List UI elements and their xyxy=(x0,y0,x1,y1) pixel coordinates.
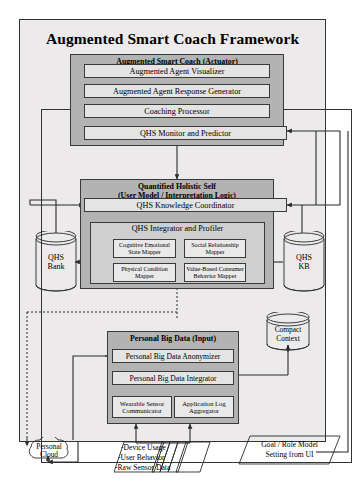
goal-role-model-line2: Setting from UI xyxy=(238,450,341,459)
box-label-line1: Application Log xyxy=(182,400,225,408)
box-application-log-aggregator[interactable]: Application Log Aggregator xyxy=(174,396,234,418)
datastore-qhs-bank-line2: Bank xyxy=(33,262,79,271)
box-label-line2: Mapper xyxy=(135,273,154,280)
box-label-line1: Physical Condition xyxy=(121,266,168,273)
qhs-group-title-line1: Quantified Holistic Self xyxy=(81,180,273,191)
box-augmented-agent-response-generator[interactable]: Augmented Agent Response Generator xyxy=(84,84,270,98)
datastore-qhs-kb-line2: KB xyxy=(281,262,327,271)
box-label: QHS Monitor and Predictor xyxy=(140,129,231,138)
raw-data-line3: -Raw Sensor Data xyxy=(115,463,214,472)
box-label: Personal Big Data Integrator xyxy=(129,374,216,383)
box-qhs-monitor-and-predictor[interactable]: QHS Monitor and Predictor xyxy=(84,126,287,140)
box-value-based-consumer-behavior-mapper[interactable]: Value-Based Consumer Behavior Mapper xyxy=(184,263,246,282)
box-label-line2: Behavior Mapper xyxy=(194,273,237,280)
box-coaching-processor[interactable]: Coaching Processor xyxy=(84,104,270,118)
box-label: Coaching Processor xyxy=(144,107,209,116)
box-personal-big-data-anonymizer[interactable]: Personal Big Data Anonymizer xyxy=(112,349,234,363)
goal-role-model-input[interactable]: Goal / Role Model Setting from UI xyxy=(238,434,341,466)
box-label-line1: Value-Based Consumer xyxy=(186,266,243,273)
raw-data-line2: -User Behavior xyxy=(118,453,214,462)
box-label-line2: Mapper xyxy=(206,249,225,256)
personal-cloud[interactable]: Personal Cloud xyxy=(19,437,79,470)
box-label-line2: Communicator xyxy=(122,407,162,415)
box-label-line1: Cognitive Emotional xyxy=(119,242,170,249)
diagram-canvas: Augmented Smart Coach Framework xyxy=(0,0,354,481)
raw-data-line1: -Device Usage xyxy=(121,443,214,452)
datastore-qhs-bank[interactable]: QHS Bank xyxy=(33,231,79,293)
box-physical-condition-mapper[interactable]: Physical Condition Mapper xyxy=(113,263,176,282)
box-label: Augmented Agent Visualizer xyxy=(130,67,225,76)
box-augmented-agent-visualizer[interactable]: Augmented Agent Visualizer xyxy=(84,64,270,78)
datastore-compact-context[interactable]: Compact Context xyxy=(263,312,313,354)
box-label: QHS Knowledge Coordinator xyxy=(137,201,235,210)
box-label-line1: Social Relationship xyxy=(191,242,239,249)
personal-cloud-line2: Cloud xyxy=(19,451,79,459)
box-cognitive-emotional-state-mapper[interactable]: Cognitive Emotional State Mapper xyxy=(113,239,176,258)
box-label-line2: Aggregator xyxy=(189,407,219,415)
goal-role-model-line1: Goal / Role Model xyxy=(238,440,341,449)
box-label: Personal Big Data Anonymizer xyxy=(126,352,221,361)
personal-big-data-group-title: Personal Big Data (Input) xyxy=(108,332,238,343)
box-label-line1: Wearable Sensor xyxy=(120,400,164,408)
datastore-compact-context-line1: Compact xyxy=(263,325,313,334)
datastore-qhs-bank-line1: QHS xyxy=(33,253,79,262)
box-wearable-sensor-communicator[interactable]: Wearable Sensor Communicator xyxy=(112,396,172,418)
qhs-profiler-title: QHS Integrator and Profiler xyxy=(91,223,264,233)
box-label: Augmented Agent Response Generator xyxy=(113,87,241,96)
box-qhs-knowledge-coordinator[interactable]: QHS Knowledge Coordinator xyxy=(84,198,287,212)
box-personal-big-data-integrator[interactable]: Personal Big Data Integrator xyxy=(112,371,234,385)
datastore-qhs-kb-line1: QHS xyxy=(281,253,327,262)
datastore-qhs-kb[interactable]: QHS KB xyxy=(281,231,327,293)
box-label-line2: State Mapper xyxy=(128,249,161,256)
datastore-compact-context-line2: Context xyxy=(263,334,313,343)
box-social-relationship-mapper[interactable]: Social Relationship Mapper xyxy=(184,239,246,258)
raw-data-input-stack[interactable]: -Device Usage -User Behavior -Raw Sensor… xyxy=(114,440,214,476)
